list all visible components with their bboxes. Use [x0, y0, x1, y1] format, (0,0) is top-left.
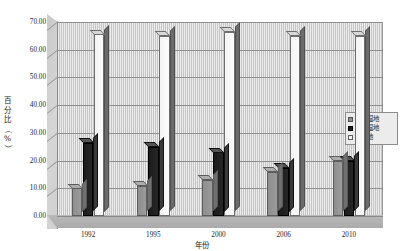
bar-top: [220, 27, 235, 32]
y-axis-tick-0: 0.00: [0, 212, 46, 220]
plot-left-wall: [47, 14, 58, 229]
chart-container: 0.0010.0020.0030.0040.0050.0060.0070.00 …: [0, 0, 404, 251]
bar-top: [89, 30, 104, 35]
bar-group-2000: [202, 14, 235, 216]
bar-top: [285, 31, 300, 36]
x-axis-tick-2010: 2010: [333, 231, 365, 239]
y-axis-title-char: 百: [2, 96, 13, 106]
bar-side: [289, 159, 294, 212]
x-axis-tick-1992: 1992: [72, 231, 104, 239]
bar-side: [300, 27, 305, 212]
bar-face: [137, 186, 148, 216]
y-axis-title-char: ）: [3, 143, 13, 154]
bar-side: [82, 179, 87, 211]
y-axis-tick-70: 70.00: [0, 18, 46, 26]
y-axis-tick-20: 20.00: [0, 157, 46, 165]
bar-face: [267, 172, 278, 216]
legend-swatch-icon: [348, 126, 353, 131]
bar-2010-gray: [333, 161, 344, 216]
bar-side: [147, 177, 152, 212]
y-axis-tick-50: 50.00: [0, 73, 46, 81]
bar-side: [93, 134, 98, 212]
y-axis-title-char: 分: [2, 106, 13, 116]
chart-legend: 人工湿地天然湿地非湿地: [345, 112, 398, 145]
bar-side: [104, 25, 109, 211]
bar-side: [170, 27, 175, 212]
bar-top: [78, 138, 93, 143]
bar-side: [235, 23, 240, 212]
x-axis-title: 年份: [0, 239, 404, 250]
y-axis-tick-60: 60.00: [0, 46, 46, 54]
bar-top: [350, 31, 365, 36]
bar-group-1995: [137, 14, 170, 216]
bar-top: [155, 31, 170, 36]
x-axis-tick-2006: 2006: [268, 231, 300, 239]
bar-side: [278, 163, 283, 212]
legend-swatch-icon: [348, 135, 353, 140]
bar-2000-gray: [202, 180, 213, 216]
y-axis-title-char: （: [3, 124, 13, 135]
bar-1992-gray: [72, 188, 83, 216]
bar-top: [144, 142, 159, 147]
bar-2006-gray: [267, 172, 278, 216]
plot-floor: [47, 215, 383, 229]
bar-side: [159, 138, 164, 212]
x-axis-tick-2000: 2000: [203, 231, 235, 239]
bar-face: [72, 188, 83, 216]
y-axis-tick-10: 10.00: [0, 184, 46, 192]
bar-side: [224, 143, 229, 211]
bar-group-2006: [267, 14, 300, 216]
legend-swatch-icon: [348, 117, 353, 122]
x-axis-tick-1995: 1995: [137, 231, 169, 239]
bar-side: [354, 152, 359, 212]
plot-area: [47, 14, 383, 229]
bar-top: [209, 148, 224, 153]
bar-face: [333, 161, 344, 216]
bar-1995-gray: [137, 186, 148, 216]
bar-side: [365, 27, 370, 212]
bar-side: [213, 171, 218, 212]
bar-side: [343, 152, 348, 212]
y-axis-title: 百分比（%）: [2, 96, 13, 154]
bar-face: [202, 180, 213, 216]
bar-group-1992: [72, 14, 105, 216]
